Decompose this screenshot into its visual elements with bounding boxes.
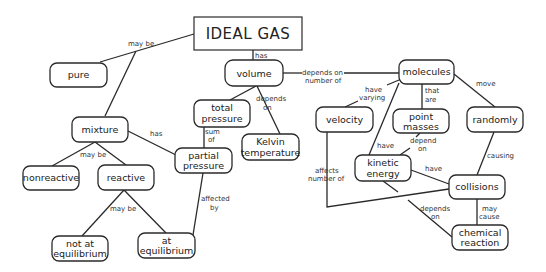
node-mixture: mixture bbox=[72, 117, 128, 142]
svg-text:nonreactive: nonreactive bbox=[23, 172, 79, 183]
label-move: move bbox=[476, 80, 496, 88]
node-volume: volume bbox=[225, 60, 283, 86]
label-may: may bbox=[482, 205, 497, 213]
edge-ideal-gas-mixture bbox=[105, 51, 136, 116]
label-by: by bbox=[210, 204, 219, 212]
svg-text:velocity: velocity bbox=[326, 114, 364, 125]
svg-text:IDEAL GAS: IDEAL GAS bbox=[206, 25, 291, 43]
edge-molecules-velocity-b bbox=[345, 101, 358, 107]
label-has-volume: has bbox=[255, 52, 268, 60]
label-affects-number-of: number of bbox=[308, 175, 345, 183]
label-volume-depends: depends bbox=[256, 95, 286, 103]
node-reactive: reactive bbox=[98, 165, 154, 190]
svg-text:pressure: pressure bbox=[201, 113, 242, 124]
svg-text:kinetic: kinetic bbox=[367, 157, 399, 168]
edge-point-kinetic bbox=[400, 148, 410, 155]
svg-text:randomly: randomly bbox=[472, 114, 517, 125]
svg-text:volume: volume bbox=[236, 68, 271, 79]
label-number-of: number of bbox=[305, 77, 342, 85]
edge-molecules-velocity-a bbox=[387, 80, 399, 85]
label-affects: affects bbox=[315, 167, 339, 175]
svg-text:energy: energy bbox=[366, 168, 399, 179]
concept-map: may be has has may be may be sum of affe… bbox=[0, 0, 546, 272]
label-reactive-may-be: may be bbox=[110, 205, 136, 213]
label-mixture-may-be: may be bbox=[80, 151, 106, 159]
svg-text:Kelvin: Kelvin bbox=[256, 136, 285, 147]
node-kelvin-temperature: Kelvin temperature bbox=[241, 134, 301, 160]
label-that: that bbox=[425, 87, 439, 95]
label-have-ke: have bbox=[377, 142, 394, 150]
label-are: are bbox=[425, 96, 436, 104]
node-not-at-equilibrium: not at equilibrium bbox=[52, 236, 108, 261]
edge-volume-total-pressure bbox=[230, 86, 256, 100]
label-affected: affected bbox=[201, 195, 230, 203]
svg-text:collisions: collisions bbox=[455, 181, 498, 192]
node-partial-pressure: partial pressure bbox=[175, 148, 232, 173]
svg-text:masses: masses bbox=[403, 121, 439, 132]
node-total-pressure: total pressure bbox=[194, 100, 250, 127]
label-cause: cause bbox=[479, 213, 500, 221]
svg-text:temperature: temperature bbox=[241, 147, 301, 158]
svg-text:total: total bbox=[211, 102, 233, 113]
label-depend-on: on bbox=[418, 145, 427, 153]
label-may-be-top: may be bbox=[128, 40, 154, 48]
edge-molecules-randomly bbox=[454, 74, 495, 107]
svg-text:equilibrium: equilibrium bbox=[53, 248, 107, 259]
node-kinetic-energy: kinetic energy bbox=[355, 155, 411, 181]
node-point-masses: point masses bbox=[393, 109, 449, 133]
svg-text:pressure: pressure bbox=[183, 160, 224, 171]
node-randomly: randomly bbox=[467, 107, 523, 132]
svg-text:reactive: reactive bbox=[107, 172, 146, 183]
label-depends-on: depends on bbox=[302, 69, 343, 77]
svg-text:pure: pure bbox=[68, 69, 90, 80]
edge-reactive-not-eq bbox=[82, 190, 124, 236]
label-depend: depend bbox=[410, 137, 436, 145]
label-varying: varying bbox=[359, 94, 385, 102]
label-have: have bbox=[365, 86, 382, 94]
label-depends-cr-on: on bbox=[431, 213, 440, 221]
svg-text:equilibrium: equilibrium bbox=[140, 245, 194, 256]
edge-partial-at-eq bbox=[193, 173, 203, 235]
label-sum: sum bbox=[205, 128, 220, 136]
node-velocity: velocity bbox=[316, 107, 373, 132]
svg-text:reaction: reaction bbox=[461, 237, 500, 248]
edge-kinetic-chemical-a bbox=[383, 181, 398, 192]
node-ideal-gas: IDEAL GAS bbox=[194, 17, 302, 50]
node-at-equilibrium: at equilibrium bbox=[138, 233, 195, 258]
node-chemical-reaction: chemical reaction bbox=[452, 225, 508, 250]
label-ke-have: have bbox=[425, 165, 442, 173]
node-molecules: molecules bbox=[399, 60, 454, 84]
label-volume-on: on bbox=[263, 104, 272, 112]
label-of: of bbox=[208, 136, 215, 144]
svg-text:molecules: molecules bbox=[402, 66, 450, 77]
edge-ideal-gas-pure bbox=[100, 34, 194, 62]
svg-text:mixture: mixture bbox=[82, 124, 119, 135]
node-nonreactive: nonreactive bbox=[23, 166, 79, 190]
label-depends-cr: depends bbox=[420, 205, 450, 213]
label-mixture-has: has bbox=[150, 130, 163, 138]
node-pure: pure bbox=[50, 63, 107, 87]
node-collisions: collisions bbox=[449, 175, 505, 199]
label-causing: causing bbox=[487, 152, 514, 160]
